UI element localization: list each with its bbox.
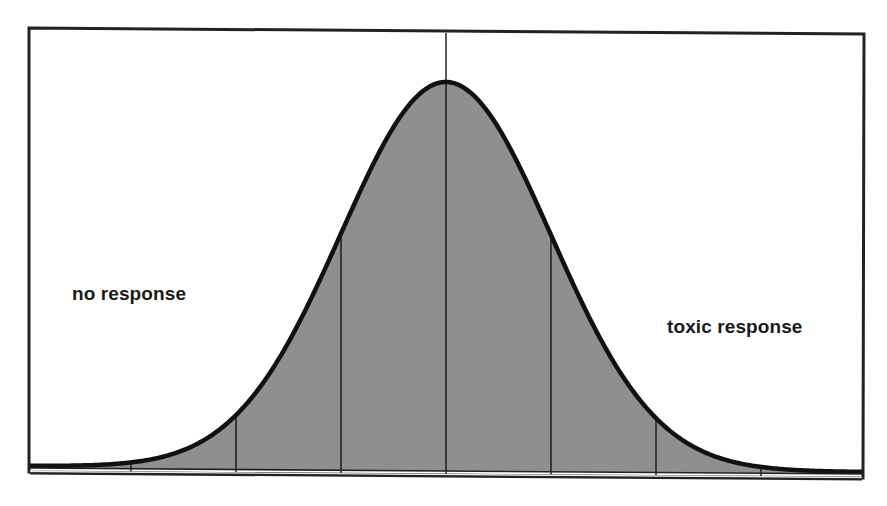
bell-curve-chart: [0, 0, 887, 506]
toxic-response-label: toxic response: [667, 316, 803, 338]
no-response-label: no response: [72, 283, 186, 305]
